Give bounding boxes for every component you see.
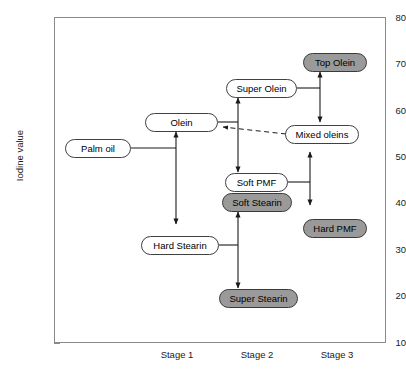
y-tick-mark-10 — [54, 343, 60, 344]
y-tick-label-50: 50 — [384, 152, 406, 162]
node-olein[interactable]: Olein — [145, 113, 218, 132]
y-tick-label-20: 20 — [384, 291, 406, 301]
x-tick-label-stage-2: Stage 2 — [222, 349, 292, 360]
node-top-olein[interactable]: Top Olein — [303, 53, 367, 72]
y-tick-label-70: 70 — [384, 59, 406, 69]
node-palm-oil[interactable]: Palm oil — [65, 139, 131, 158]
node-hard-stearin[interactable]: Hard Stearin — [141, 236, 219, 255]
y-tick-label-10: 10 — [384, 338, 406, 348]
y-tick-label-40: 40 — [384, 198, 406, 208]
node-super-olein[interactable]: Super Olein — [226, 79, 297, 98]
node-soft-pmf[interactable]: Soft PMF — [225, 173, 288, 192]
x-tick-label-stage-3: Stage 3 — [302, 349, 372, 360]
y-tick-label-60: 60 — [384, 106, 406, 116]
node-hard-pmf[interactable]: Hard PMF — [303, 219, 367, 238]
node-super-stearin[interactable]: Super Stearin — [219, 289, 298, 308]
y-tick-label-80: 80 — [384, 13, 406, 23]
node-mixed-oleins[interactable]: Mixed oleins — [285, 125, 359, 144]
y-tick-label-30: 30 — [384, 245, 406, 255]
node-soft-stearin[interactable]: Soft Stearin — [222, 193, 292, 212]
x-tick-label-stage-1: Stage 1 — [142, 349, 212, 360]
y-axis-title: Iodine value — [14, 116, 25, 196]
fractionation-diagram: 80 70 60 50 40 30 20 10 Iodine value Sta… — [0, 0, 406, 375]
